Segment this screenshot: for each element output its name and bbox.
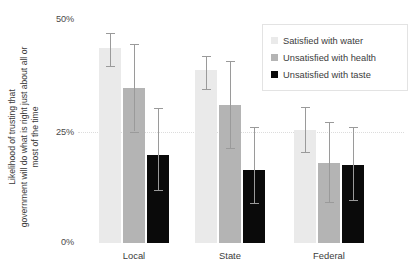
error-cap-low-local-series-0	[106, 66, 115, 67]
chart-legend: Satisfied with water Unsatisfied with he…	[262, 24, 408, 91]
legend-item-satisfied-with-water: Satisfied with water	[271, 32, 401, 49]
error-bar-federal-series-2	[353, 127, 354, 200]
error-bar-federal-series-1	[329, 122, 330, 202]
x-tick-label-federal: Federal	[289, 250, 369, 261]
legend-item-unsatisfied-with-health: Unsatisfied with health	[271, 49, 401, 66]
error-cap-low-local-series-2	[154, 190, 163, 191]
error-bar-state-series-0	[206, 56, 207, 89]
error-cap-low-state-series-2	[250, 203, 259, 204]
x-tick-label-state: State	[190, 250, 270, 261]
x-tick-label-local: Local	[94, 250, 174, 261]
error-bar-state-series-2	[254, 127, 255, 203]
error-cap-high-state-series-2	[250, 127, 259, 128]
error-cap-high-local-series-2	[154, 108, 163, 109]
error-bar-local-series-0	[110, 33, 111, 66]
y-tick-label-50: 50%	[36, 14, 74, 24]
error-bar-state-series-1	[230, 61, 231, 148]
error-cap-high-local-series-1	[130, 44, 139, 45]
error-bar-federal-series-0	[305, 107, 306, 152]
error-cap-high-state-series-1	[226, 61, 235, 62]
legend-label-series-1: Unsatisfied with health	[283, 53, 376, 63]
y-axis-title-line-2: government will do what is right just ab…	[18, 47, 30, 228]
error-cap-low-state-series-0	[202, 89, 211, 90]
error-cap-high-federal-series-0	[301, 107, 310, 108]
bar-state-series-0	[195, 70, 217, 243]
error-cap-low-federal-series-1	[325, 202, 334, 203]
bar-local-series-0	[99, 48, 121, 243]
legend-swatch-icon-series-2	[271, 71, 278, 78]
error-cap-high-federal-series-2	[349, 127, 358, 128]
error-cap-low-federal-series-0	[301, 152, 310, 153]
legend-swatch-icon-series-1	[271, 54, 278, 61]
error-cap-low-federal-series-2	[349, 200, 358, 201]
error-cap-low-state-series-1	[226, 148, 235, 149]
error-bar-local-series-2	[158, 108, 159, 190]
error-cap-high-state-series-0	[202, 56, 211, 57]
legend-label-series-0: Satisfied with water	[283, 36, 363, 46]
legend-item-unsatisfied-with-taste: Unsatisfied with taste	[271, 66, 401, 83]
legend-label-series-2: Unsatisfied with taste	[283, 70, 371, 80]
error-cap-low-local-series-1	[130, 132, 139, 133]
bar-chart: Likelihood of trusting that government w…	[0, 0, 410, 274]
legend-swatch-icon-series-0	[271, 37, 278, 44]
error-cap-high-local-series-0	[106, 33, 115, 34]
error-bar-local-series-1	[134, 44, 135, 131]
error-cap-high-federal-series-1	[325, 122, 334, 123]
y-axis-tick-labels: 50% 25% 0%	[30, 0, 74, 274]
y-tick-label-0: 0%	[36, 237, 74, 247]
y-tick-label-25: 25%	[36, 127, 74, 137]
y-axis-title-line-1: Likelihood of trusting that	[7, 47, 19, 228]
